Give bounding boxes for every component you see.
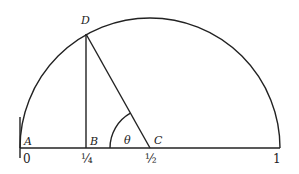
label-point-d: D (80, 14, 90, 27)
segment-dc (86, 34, 150, 148)
tick-label-quarter: ¼ (81, 152, 93, 166)
semicircle-arc (20, 18, 280, 148)
tick-label-half: ½ (145, 152, 157, 166)
label-point-b: B (89, 135, 98, 148)
label-angle-theta: θ (124, 134, 131, 147)
tick-label-1: 1 (273, 152, 281, 166)
label-point-c: C (154, 134, 163, 147)
tick-label-0: 0 (23, 152, 31, 166)
semicircle-diagram: D A B C θ 0 ¼ ½ 1 (0, 0, 299, 174)
label-point-a: A (23, 135, 32, 148)
